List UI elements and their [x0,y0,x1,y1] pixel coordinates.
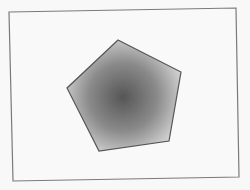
diagram-canvas [0,0,250,190]
